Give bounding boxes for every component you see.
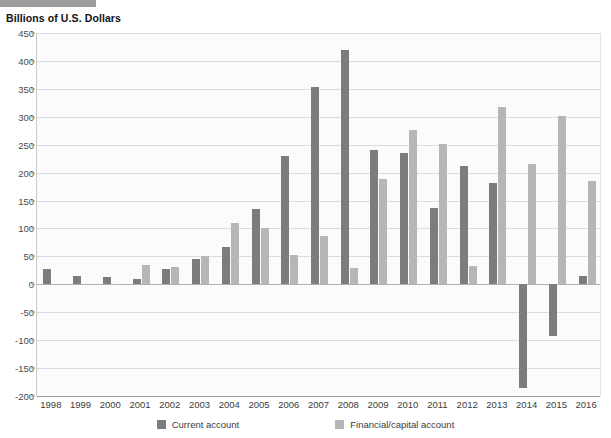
bar-group [305, 33, 335, 396]
x-axis-tick-label: 2003 [189, 399, 210, 410]
bar [379, 179, 387, 284]
bar [519, 284, 527, 387]
bar-group [126, 33, 156, 396]
chart-legend: Current accountFinancial/capital account [0, 416, 611, 432]
y-axis-tick-mark [31, 256, 35, 257]
x-axis-tick-label: 2002 [159, 399, 180, 410]
y-axis-tick-label: 250 [3, 139, 34, 150]
bar [400, 153, 408, 285]
x-axis-tick-label: 2001 [130, 399, 151, 410]
bar-group [513, 33, 543, 396]
y-axis-tick-label: -150 [3, 363, 34, 374]
y-axis-tick-label: 200 [3, 167, 34, 178]
x-axis-tick-label: 2015 [546, 399, 567, 410]
y-axis-tick-mark [31, 312, 35, 313]
y-axis-tick-mark [31, 396, 35, 397]
bar-group [572, 33, 602, 396]
bar-group [453, 33, 483, 396]
x-axis-tick-label: 2011 [427, 399, 447, 410]
bar-group [215, 33, 245, 396]
y-axis-tick-mark [31, 172, 35, 173]
bar [103, 277, 111, 284]
bar [231, 223, 239, 284]
bar [261, 228, 269, 284]
legend-item: Financial/capital account [335, 416, 454, 432]
bar [460, 166, 468, 284]
bar-chart: 450400350300250200150100500-50-100-150-2… [0, 0, 611, 438]
bar-group [334, 33, 364, 396]
bar-group [543, 33, 573, 396]
x-axis-tick-label: 2006 [278, 399, 299, 410]
bar [73, 276, 81, 284]
bar [252, 209, 260, 284]
bar [281, 156, 289, 284]
x-axis-tick-label: 2010 [397, 399, 418, 410]
legend-label: Financial/capital account [350, 419, 454, 430]
y-axis-tick-mark [31, 228, 35, 229]
legend-item: Current account [157, 416, 240, 432]
bar [588, 181, 596, 284]
bar [489, 183, 497, 284]
bar [439, 144, 447, 285]
bar [171, 267, 179, 284]
bar [162, 269, 170, 284]
bar [498, 107, 506, 284]
y-axis-tick-mark [31, 144, 35, 145]
bar-group [156, 33, 186, 396]
x-axis-tick-label: 1998 [40, 399, 61, 410]
y-axis-tick-label: -50 [3, 307, 34, 318]
bar [142, 265, 150, 284]
x-axis-tick-label: 2000 [100, 399, 121, 410]
y-axis-tick-mark [31, 200, 35, 201]
x-axis-tick-label: 2007 [308, 399, 329, 410]
bar [558, 116, 566, 285]
x-axis-tick-label: 2004 [219, 399, 240, 410]
y-axis-tick-label: -200 [3, 391, 34, 402]
legend-swatch-icon [335, 420, 344, 429]
bar [370, 150, 378, 285]
x-axis-tick-label: 2009 [367, 399, 388, 410]
bar-group [424, 33, 454, 396]
bar-group [394, 33, 424, 396]
y-axis-tick-label: 100 [3, 223, 34, 234]
bar-group [96, 33, 126, 396]
y-axis-tick-mark [31, 88, 35, 89]
bar [222, 247, 230, 284]
x-axis-tick-label: 1999 [70, 399, 91, 410]
y-axis-tick-label: 150 [3, 195, 34, 206]
x-axis-tick-label: 2014 [516, 399, 537, 410]
y-axis-tick-mark [31, 33, 35, 34]
bar-group [364, 33, 394, 396]
bar-group [275, 33, 305, 396]
legend-swatch-icon [157, 420, 166, 429]
bar [320, 236, 328, 284]
bar-group [245, 33, 275, 396]
x-axis-tick-label: 2012 [457, 399, 478, 410]
bar [201, 256, 209, 284]
bar [469, 266, 477, 284]
bar [192, 259, 200, 284]
bar [549, 284, 557, 336]
bar-group [37, 33, 67, 396]
legend-label: Current account [172, 419, 240, 430]
y-axis-tick-label: 0 [3, 279, 34, 290]
x-axis-tick-label: 2008 [338, 399, 359, 410]
bar [290, 255, 298, 284]
bar [528, 164, 536, 284]
bar [579, 276, 587, 284]
bar-group [483, 33, 513, 396]
gridline--200 [37, 396, 600, 397]
bar-group [67, 33, 97, 396]
y-axis-tick-label: 300 [3, 111, 34, 122]
plot-area [36, 33, 601, 396]
bar [311, 87, 319, 284]
y-axis-tick-label: 350 [3, 83, 34, 94]
bar [430, 208, 438, 284]
y-axis-tick-mark [31, 60, 35, 61]
y-axis-tick-mark [31, 340, 35, 341]
bar [350, 268, 358, 285]
bar [133, 279, 141, 284]
bar [341, 50, 349, 285]
y-axis-tick-label: 400 [3, 55, 34, 66]
y-axis: 450400350300250200150100500-50-100-150-2… [0, 33, 34, 396]
